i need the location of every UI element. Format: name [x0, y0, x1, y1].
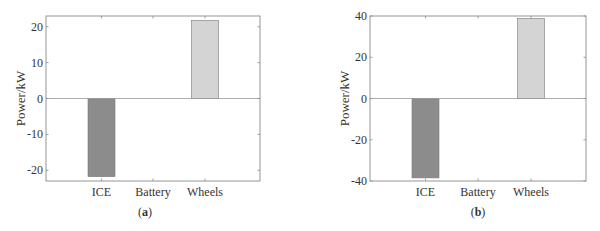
x-tick-label: Wheels — [187, 185, 223, 199]
y-tick-label: 0 — [361, 92, 367, 106]
y-tick-label: -10 — [27, 127, 43, 141]
y-tick-label: 40 — [355, 9, 367, 23]
x-tick-label: Wheels — [513, 185, 549, 199]
bar-wheels — [192, 20, 219, 98]
chart-panel-a: -20-1001020ICEBatteryWheelsPower/kW(a) — [13, 16, 260, 219]
y-tick-label: -20 — [351, 133, 367, 147]
panel-label: (a) — [138, 205, 152, 219]
y-axis-label: Power/kW — [337, 70, 352, 126]
y-tick-label: -40 — [351, 174, 367, 188]
y-tick-label: 0 — [37, 92, 43, 106]
y-tick-label: 20 — [355, 50, 367, 64]
x-tick-label: Battery — [460, 185, 495, 199]
bar-wheels — [518, 18, 545, 98]
y-tick-label: 10 — [31, 56, 43, 70]
panel-label: (b) — [471, 205, 486, 219]
x-tick-label: ICE — [92, 185, 111, 199]
figure: -20-1001020ICEBatteryWheelsPower/kW(a) -… — [0, 0, 600, 231]
y-axis-label: Power/kW — [13, 70, 28, 126]
y-tick-label: -20 — [27, 163, 43, 177]
x-tick-label: Battery — [135, 185, 170, 199]
x-tick-label: ICE — [416, 185, 435, 199]
y-tick-label: 20 — [31, 20, 43, 34]
chart-panel-b: -40-2002040ICEBatteryWheelsPower/kW(b) — [337, 9, 586, 219]
bar-ice — [88, 99, 115, 177]
bar-ice — [412, 99, 439, 178]
